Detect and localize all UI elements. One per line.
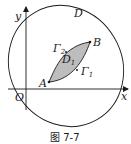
point-a-label: A — [38, 77, 47, 90]
gamma1-letter: Γ — [80, 65, 89, 78]
point-b-dot — [89, 41, 92, 44]
diagram-canvas: y x O D A B D1 Γ2 Γ1 图 7-7 — [0, 0, 131, 144]
point-b-label: B — [92, 36, 101, 49]
figure-caption: 图 7-7 — [50, 132, 80, 143]
origin-label: O — [15, 91, 24, 104]
y-axis-label: y — [14, 10, 22, 23]
gamma2-letter: Γ — [52, 42, 61, 55]
gamma1-marker-dot — [76, 69, 78, 71]
point-a-dot — [48, 81, 51, 84]
gamma2-subscript: 2 — [60, 48, 66, 56]
region-d1-subscript: 1 — [71, 59, 75, 67]
x-axis-label: x — [121, 90, 128, 103]
region-d-label: D — [73, 7, 83, 20]
gamma2-label: Γ2 — [52, 42, 66, 56]
gamma1-subscript: 1 — [89, 71, 93, 79]
gamma1-label: Γ1 — [80, 65, 93, 79]
